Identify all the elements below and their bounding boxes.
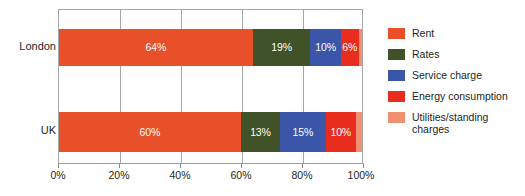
legend-swatch-icon <box>388 28 405 39</box>
plot-area: 64% 19% 10% 6% 60% 13% 15% <box>58 9 363 164</box>
legend-swatch-icon <box>388 70 405 81</box>
category-label-london: London <box>4 41 56 52</box>
x-axis-tick-80 <box>302 164 303 168</box>
legend-item-service-charge[interactable]: Service charge <box>388 69 525 81</box>
legend-item-energy-consumption[interactable]: Energy consumption <box>388 90 525 102</box>
stacked-bar-chart: London UK 64% 19% 10% 6% <box>0 0 525 196</box>
legend-label: Rates <box>412 48 439 60</box>
bar-segment-label: 15% <box>293 127 314 138</box>
legend-item-rent[interactable]: Rent <box>388 27 525 39</box>
x-axis-tick-60 <box>241 164 242 168</box>
bar-segment-label: 10% <box>330 127 351 138</box>
legend-label: Service charge <box>412 69 482 81</box>
bar-segment-london-utilities-standing-charges[interactable] <box>359 29 362 66</box>
x-axis-label-100: 100% <box>348 170 375 181</box>
bar-uk[interactable]: 60% 13% 15% 10% <box>59 112 362 152</box>
bar-segment-label: 60% <box>140 127 161 138</box>
bar-segment-london-service-charge[interactable]: 10% <box>310 29 340 66</box>
x-axis-label-60: 60% <box>230 170 251 181</box>
legend-swatch-icon <box>388 112 405 123</box>
bar-segment-london-rent[interactable]: 64% <box>59 29 253 66</box>
legend-item-utilities-standing-charges[interactable]: Utilities/standing charges <box>388 111 525 135</box>
x-axis-label-20: 20% <box>108 170 129 181</box>
legend-swatch-icon <box>388 91 405 102</box>
bar-segment-uk-service-charge[interactable]: 15% <box>280 112 325 152</box>
bar-segment-label: 13% <box>250 127 271 138</box>
bar-segment-uk-rates[interactable]: 13% <box>241 112 280 152</box>
bar-segment-uk-rent[interactable]: 60% <box>59 112 241 152</box>
legend-item-rates[interactable]: Rates <box>388 48 525 60</box>
legend-swatch-icon <box>388 49 405 60</box>
x-axis-line <box>58 163 364 164</box>
category-axis: London UK <box>0 0 56 196</box>
bar-segment-label: 64% <box>146 42 167 53</box>
bar-segment-label: 19% <box>271 42 292 53</box>
x-axis-label-40: 40% <box>169 170 190 181</box>
bar-london[interactable]: 64% 19% 10% 6% <box>59 29 362 66</box>
x-axis-tick-40 <box>180 164 181 168</box>
x-axis-tick-0 <box>58 164 59 168</box>
bar-segment-uk-utilities-standing-charges[interactable] <box>356 112 362 152</box>
x-axis-tick-20 <box>119 164 120 168</box>
bar-segment-label: 10% <box>315 42 336 53</box>
legend-label: Rent <box>412 27 434 39</box>
category-label-uk: UK <box>4 125 56 136</box>
bar-segment-label: 6% <box>342 42 357 53</box>
x-axis-tick-100 <box>363 164 364 168</box>
x-axis-label-0: 0% <box>50 170 65 181</box>
bar-segment-london-energy-consumption[interactable]: 6% <box>341 29 359 66</box>
bar-segment-uk-energy-consumption[interactable]: 10% <box>326 112 356 152</box>
chart-legend: Rent Rates Service charge Energy consump… <box>388 27 525 144</box>
legend-label: Energy consumption <box>412 90 508 102</box>
bar-segment-london-rates[interactable]: 19% <box>253 29 311 66</box>
legend-label: Utilities/standing charges <box>412 111 522 135</box>
x-axis-label-80: 80% <box>291 170 312 181</box>
